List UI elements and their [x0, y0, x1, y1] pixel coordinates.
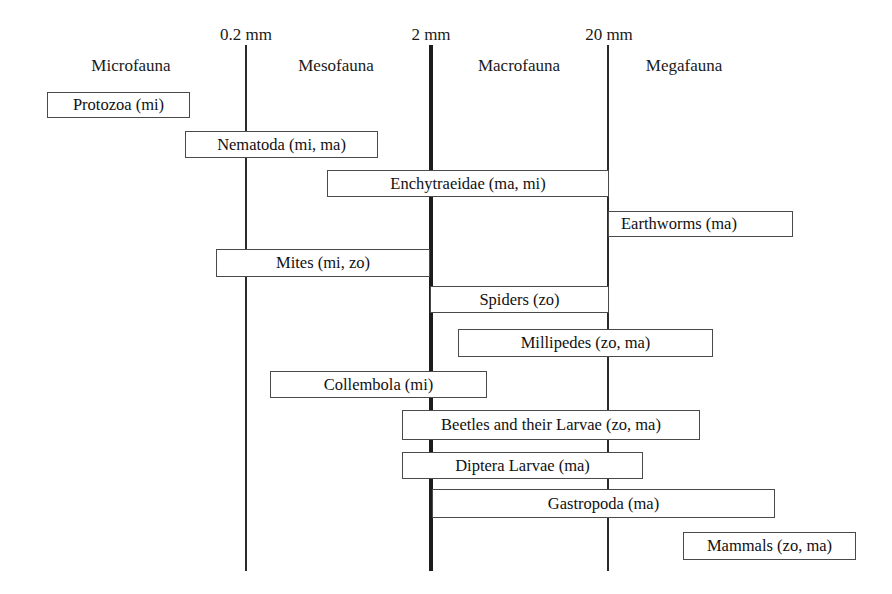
taxon-box-spiders: Spiders (zo) — [430, 286, 609, 313]
taxon-box-diptera-larvae: Diptera Larvae (ma) — [402, 452, 643, 479]
category-label-megafauna: Megafauna — [646, 57, 722, 74]
tick-label-20mm: 20 mm — [585, 26, 633, 43]
taxon-box-earthworms: Earthworms (ma) — [608, 211, 793, 237]
category-label-microfauna: Microfauna — [91, 57, 170, 74]
taxon-box-beetles-and-larvae: Beetles and their Larvae (zo, ma) — [402, 410, 700, 440]
tick-label-2mm: 2 mm — [411, 26, 450, 43]
category-label-mesofauna: Mesofauna — [298, 57, 374, 74]
taxon-box-millipedes: Millipedes (zo, ma) — [458, 329, 713, 357]
taxon-box-enchytraeidae: Enchytraeidae (ma, mi) — [327, 170, 609, 197]
taxon-box-nematoda: Nematoda (mi, ma) — [185, 131, 378, 158]
tick-label-0-2mm: 0.2 mm — [220, 26, 272, 43]
taxon-box-mammals: Mammals (zo, ma) — [683, 532, 856, 560]
taxon-box-gastropoda: Gastropoda (ma) — [432, 489, 775, 518]
boundary-line-0-2mm — [245, 45, 247, 571]
taxon-box-collembola: Collembola (mi) — [270, 371, 487, 398]
category-label-macrofauna: Macrofauna — [478, 57, 560, 74]
taxon-box-protozoa: Protozoa (mi) — [47, 92, 190, 118]
soil-fauna-size-diagram: 0.2 mm 2 mm 20 mm Microfauna Mesofauna M… — [0, 0, 892, 594]
taxon-box-mites: Mites (mi, zo) — [216, 249, 430, 277]
